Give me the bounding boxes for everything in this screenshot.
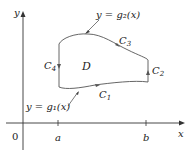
c4-label: C4 (44, 60, 56, 73)
x-axis-label: x (178, 128, 184, 139)
region-diagram: y x 0 a b D y = g₂(x) y = g₁(x) C4 C2 C3… (0, 0, 188, 153)
c2-arrow-icon (146, 70, 150, 75)
region-boundary (59, 34, 148, 89)
y-axis-arrow-icon (21, 11, 26, 17)
tick-label-a: a (55, 132, 61, 143)
origin-label: 0 (12, 131, 18, 142)
tick-label-b: b (143, 132, 149, 143)
lower-curve-label: y = g₁(x) (25, 101, 70, 112)
c4-arrow-icon (57, 64, 61, 69)
c2-label: C2 (152, 65, 165, 78)
c1-label: C1 (99, 89, 111, 102)
upper-curve-label: y = g₂(x) (95, 9, 140, 20)
x-axis-arrow-icon (179, 121, 185, 126)
region-label: D (81, 60, 91, 73)
g2-leader-arrow-icon (85, 30, 90, 34)
y-axis-label: y (13, 7, 20, 18)
